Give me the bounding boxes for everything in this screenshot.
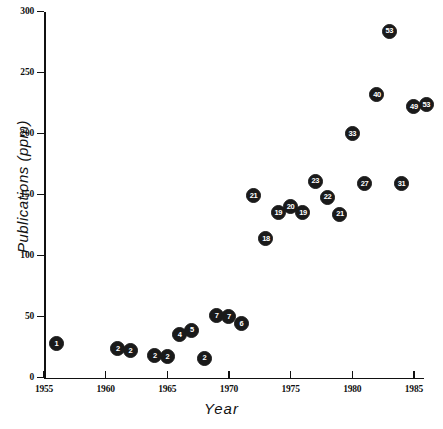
y-axis-line bbox=[44, 12, 46, 378]
data-point: 1 bbox=[49, 336, 64, 351]
data-point: 27 bbox=[357, 176, 372, 191]
data-point: 22 bbox=[320, 190, 335, 205]
x-tick-mark bbox=[167, 371, 168, 378]
y-tick-mark bbox=[37, 11, 44, 12]
data-point: 40 bbox=[369, 87, 384, 102]
data-point: 53 bbox=[419, 97, 434, 112]
x-tick-mark bbox=[43, 371, 44, 378]
x-tick-label: 1965 bbox=[147, 384, 187, 394]
x-tick-label: 1975 bbox=[271, 384, 311, 394]
x-tick-mark bbox=[105, 371, 106, 378]
scatter-plot-figure: 050100150200250300 195519601965197019751… bbox=[0, 0, 443, 429]
y-tick-mark bbox=[37, 316, 44, 317]
data-point: 31 bbox=[394, 176, 409, 191]
data-point: 2 bbox=[160, 349, 175, 364]
data-point: 53 bbox=[382, 24, 397, 39]
y-tick-mark bbox=[37, 133, 44, 134]
x-tick-mark bbox=[290, 371, 291, 378]
y-tick-mark bbox=[37, 255, 44, 256]
y-axis-title: Publications (ppm) bbox=[14, 87, 31, 287]
data-point: 2 bbox=[197, 351, 212, 366]
x-tick-label: 1955 bbox=[24, 384, 64, 394]
x-tick-mark bbox=[228, 371, 229, 378]
data-point: 6 bbox=[234, 316, 249, 331]
x-tick-label: 1985 bbox=[394, 384, 434, 394]
x-tick-mark bbox=[413, 371, 414, 378]
y-tick-mark bbox=[37, 72, 44, 73]
data-point: 23 bbox=[308, 174, 323, 189]
data-point: 2 bbox=[123, 343, 138, 358]
x-tick-label: 1970 bbox=[209, 384, 249, 394]
data-point: 19 bbox=[295, 205, 310, 220]
data-point: 21 bbox=[332, 207, 347, 222]
data-point: 21 bbox=[246, 188, 261, 203]
x-tick-mark bbox=[352, 371, 353, 378]
data-point: 33 bbox=[345, 126, 360, 141]
x-axis-title: Year bbox=[0, 400, 443, 417]
y-tick-mark bbox=[37, 194, 44, 195]
y-tick-label: 50 bbox=[0, 311, 34, 321]
x-tick-label: 1980 bbox=[332, 384, 372, 394]
y-tick-label: 0 bbox=[0, 372, 34, 382]
data-point: 5 bbox=[184, 323, 199, 338]
x-axis-line bbox=[44, 378, 424, 380]
y-tick-label: 250 bbox=[0, 67, 34, 77]
data-point: 18 bbox=[258, 231, 273, 246]
x-tick-label: 1960 bbox=[86, 384, 126, 394]
y-tick-label: 300 bbox=[0, 6, 34, 16]
